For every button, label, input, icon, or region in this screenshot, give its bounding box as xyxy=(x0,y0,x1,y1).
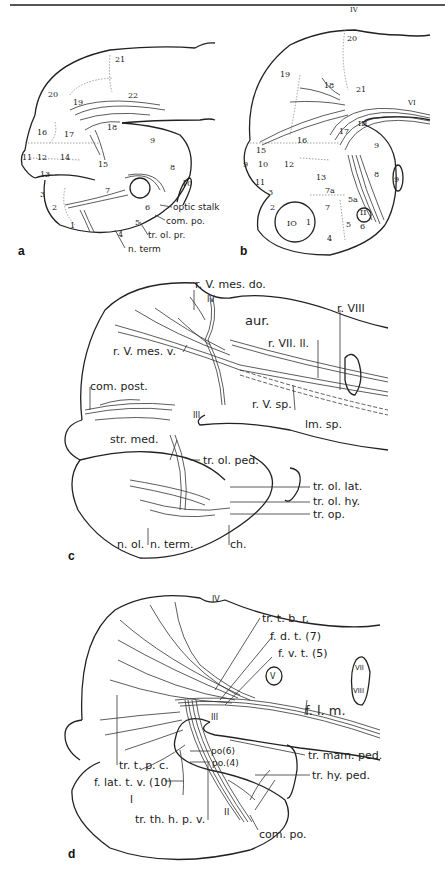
region-7a: 7a xyxy=(325,186,335,195)
region-21: 21 xyxy=(115,55,125,64)
region-8: 8 xyxy=(374,170,379,179)
region-14: 14 xyxy=(60,153,70,162)
region-16: 16 xyxy=(37,128,47,137)
label-I: I xyxy=(130,794,133,805)
region-3: 3 xyxy=(40,190,45,199)
region-7: 7 xyxy=(325,203,330,212)
region-11: 9 xyxy=(243,160,248,169)
region-4: 4 xyxy=(118,230,123,239)
region-5a: 5a xyxy=(348,195,358,204)
region-5: 5 xyxy=(346,220,351,229)
label-tr-ol-lat: tr. ol. lat. xyxy=(313,480,362,493)
region-21: 20 xyxy=(347,34,357,43)
region-4: 4 xyxy=(327,234,332,243)
region-10: 9 xyxy=(394,175,399,184)
label-V: V xyxy=(270,672,276,681)
region-17: 16 xyxy=(297,136,307,145)
label-VII: VII xyxy=(355,664,364,672)
region-8: 8 xyxy=(170,163,175,172)
region-22: 22 xyxy=(128,91,138,100)
label-f-v-t-5: f. v. t. (5) xyxy=(278,647,328,660)
region-16: 15 xyxy=(256,146,266,155)
label-tr-op: tr. op. xyxy=(313,508,345,521)
nerve-VI: VI xyxy=(407,99,416,107)
panel-b: IV 20 19 18 21 III 17 9 16 15 9 10 12 13… xyxy=(240,6,430,258)
region-2: 2 xyxy=(52,203,57,212)
label-lm-sp: lm. sp. xyxy=(305,418,342,431)
label-ch: ch. xyxy=(230,538,247,551)
region-15: 15 xyxy=(98,160,108,169)
neuroanatomy-figure: 21 20 19 22 16 17 18 9 11 12 14 15 8 13 … xyxy=(0,0,445,871)
region-20: 20 xyxy=(48,90,58,99)
label-com-po: com. po. xyxy=(166,216,205,226)
label-tr-t-b-r: tr. t. b. r. xyxy=(262,612,309,625)
region-7: 7 xyxy=(105,186,110,195)
label-n-term: n. term xyxy=(128,244,161,254)
region-18: 17 xyxy=(339,127,349,136)
label-tr-th-h-p-v: tr. th. h. p. v. xyxy=(135,813,205,826)
label-III: III xyxy=(193,411,200,420)
region-19: 18 xyxy=(324,81,334,90)
region-IO: IO xyxy=(287,219,297,228)
label-f-l-m: f. l. m. xyxy=(305,703,346,718)
label-tr-ol-pr: tr. ol. pr. xyxy=(148,230,185,240)
region-6: 6 xyxy=(360,222,365,231)
panel-d: IV tr. t. b. r. f. d. t. (7) f. v. t. (5… xyxy=(65,595,382,861)
region-9: 9 xyxy=(150,136,155,145)
panel-a: 21 20 19 22 16 17 18 9 11 12 14 15 8 13 … xyxy=(18,43,220,258)
label-f-lat-t-v-10: f. lat. t. v. (10) xyxy=(94,776,172,789)
label-com-po: com. po. xyxy=(259,828,307,841)
region-13: 11 xyxy=(255,178,265,187)
panel-letter-a: a xyxy=(18,244,25,258)
region-13: 13 xyxy=(40,170,50,179)
region-1: 1 xyxy=(70,221,75,230)
label-tr-mam-ped: tr. mam. ped. xyxy=(308,749,382,762)
label-optic-stalk: optic stalk xyxy=(173,202,220,212)
label-II: II xyxy=(224,807,229,817)
region-12: 10 xyxy=(258,160,268,169)
region-15: 13 xyxy=(316,173,326,182)
label-com-post: com. post. xyxy=(90,380,148,393)
label-f-d-t-7: f. d. t. (7) xyxy=(270,630,321,643)
region-19: 19 xyxy=(73,98,83,107)
label-tr-ol-ped: tr. ol. ped. xyxy=(203,454,259,467)
region-20: 19 xyxy=(280,70,290,79)
panel-letter-b: b xyxy=(240,244,247,258)
region-5: 5 xyxy=(135,218,140,227)
label-r-V-sp: r. V. sp. xyxy=(252,398,292,411)
region-17: 17 xyxy=(64,130,74,139)
region-12: 12 xyxy=(37,153,47,162)
region-9: 9 xyxy=(374,141,379,150)
label-IV: IV xyxy=(207,295,215,304)
label-IV: IV xyxy=(212,595,220,604)
nerve-IV: IV xyxy=(350,6,359,14)
label-tr-ol-hy: tr. ol. hy. xyxy=(313,495,360,508)
panel-c: r. V. mes. do. IV aur. r. VIII r. VII. l… xyxy=(65,278,388,563)
label-r-V-mes-v: r. V. mes. v. xyxy=(113,345,176,358)
region-1: 1 xyxy=(306,218,311,227)
label-tr-t-p-c: tr. t. p. c. xyxy=(119,759,169,772)
region-22: 21 xyxy=(356,85,366,94)
label-po-4: po.(4) xyxy=(212,758,239,768)
label-III: III xyxy=(211,713,218,722)
label-r-VII-ll: r. VII. ll. xyxy=(268,337,309,350)
label-n-ol: n. ol. xyxy=(117,538,144,551)
panel-letter-c: c xyxy=(68,549,75,563)
label-n-term: n. term. xyxy=(150,538,194,551)
region-18: 18 xyxy=(107,123,117,132)
label-r-V-mes-do: r. V. mes. do. xyxy=(195,278,266,291)
label-VIII: VIII xyxy=(353,687,364,695)
label-aur: aur. xyxy=(245,313,270,328)
region-11: 11 xyxy=(22,153,32,162)
label-str-med: str. med. xyxy=(110,433,159,446)
label-tr-hy-ped: tr. hy. ped. xyxy=(312,769,370,782)
nerve-III: III xyxy=(358,119,367,128)
region-14: 12 xyxy=(284,160,294,169)
region-3: 3 xyxy=(268,188,273,197)
region-6: 6 xyxy=(145,203,150,212)
nerve-II: II xyxy=(360,208,366,217)
region-10: 10 xyxy=(182,179,192,188)
label-r-VIII: r. VIII xyxy=(337,302,365,315)
region-2: 2 xyxy=(270,203,275,212)
label-po-6: po(6) xyxy=(211,746,235,756)
